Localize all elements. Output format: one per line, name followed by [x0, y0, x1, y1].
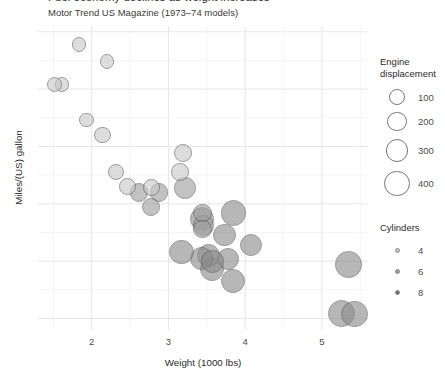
legend-size-item[interactable]: 400	[380, 166, 445, 201]
legend-size-item[interactable]: 300	[380, 135, 445, 166]
legend-engine-displacement: Engine displacement 100200300400	[380, 56, 445, 201]
legend-cyl-item[interactable]: 4	[380, 240, 445, 261]
data-point	[142, 198, 160, 216]
legend-cyl-item[interactable]: 8	[380, 282, 445, 303]
data-point	[100, 54, 115, 69]
legend-cyl-rows: 468	[380, 240, 445, 303]
legend-cyl-label: 6	[418, 266, 423, 277]
data-point	[193, 220, 212, 239]
legend-size-label: 100	[418, 92, 434, 103]
x-tick-label: 2	[82, 336, 102, 347]
x-axis-label: Weight (1000 lbs)	[165, 357, 242, 368]
data-point	[240, 234, 262, 256]
legend-cyl-swatch	[380, 240, 414, 261]
legend-cyl-swatch	[380, 282, 414, 303]
data-point	[119, 178, 136, 195]
legend-size-label: 400	[418, 178, 434, 189]
x-tick-label: 3	[158, 336, 178, 347]
plot-panel	[38, 26, 368, 330]
legend-size-swatch	[380, 135, 414, 166]
legend-size-title: Engine displacement	[380, 56, 445, 80]
data-point	[72, 37, 86, 51]
chart-title: Fuel economy declines as weight increase…	[48, 0, 270, 3]
data-point	[171, 163, 189, 181]
data-point	[174, 144, 192, 162]
legend-size-rows: 100200300400	[380, 86, 445, 201]
legend-cylinders: Cylinders 468	[380, 222, 445, 303]
chart-subtitle: Motor Trend US Magazine (1973–74 models)	[48, 7, 238, 18]
legend-cyl-item[interactable]: 6	[380, 261, 445, 282]
x-tick-label: 4	[235, 336, 255, 347]
data-point	[108, 164, 124, 180]
legend-size-item[interactable]: 100	[380, 86, 445, 108]
legend-cyl-label: 4	[418, 245, 423, 256]
data-point	[341, 301, 368, 328]
legend-size-label: 300	[418, 145, 434, 156]
data-point	[94, 127, 111, 144]
legend-size-swatch	[380, 86, 414, 108]
data-point	[201, 250, 224, 273]
data-point	[335, 251, 361, 277]
data-points-layer	[38, 26, 368, 330]
x-tick-label: 5	[312, 336, 332, 347]
legend-cyl-title: Cylinders	[380, 222, 445, 234]
legend-size-swatch	[380, 108, 414, 135]
legend-cyl-swatch	[380, 261, 414, 282]
legend-cyl-label: 8	[418, 287, 423, 298]
data-point	[79, 113, 94, 128]
data-point	[221, 200, 246, 225]
data-point	[169, 240, 193, 264]
legend-size-item[interactable]: 200	[380, 108, 445, 135]
data-point	[213, 224, 235, 246]
chart-root: Fuel economy declines as weight increase…	[0, 0, 445, 381]
data-point	[221, 269, 245, 293]
legend-size-label: 200	[418, 116, 434, 127]
y-axis-label: Miles/(US) gallon	[13, 98, 24, 238]
x-axis-label-wrap: Weight (1000 lbs)	[38, 352, 368, 370]
legend-size-swatch	[380, 166, 414, 201]
